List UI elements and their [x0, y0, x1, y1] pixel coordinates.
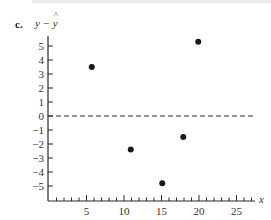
- data-point: [89, 64, 95, 70]
- data-point: [159, 180, 165, 186]
- y-tick-label: −5: [32, 180, 44, 192]
- data-point: [195, 39, 201, 45]
- y-tick-label: 4: [39, 54, 45, 66]
- y-tick-label: −1: [32, 124, 44, 136]
- x-tick-label: 25: [231, 205, 243, 217]
- data-point: [180, 134, 186, 140]
- data-point: [128, 147, 134, 153]
- y-tick-label: −3: [32, 152, 44, 164]
- x-axis-label: x: [258, 193, 264, 205]
- y-axis: 543210−1−2−3−4−5: [32, 36, 53, 201]
- x-tick-label: 5: [84, 205, 90, 217]
- residual-scatter-plot: 543210−1−2−3−4−5 510152025 x: [0, 0, 271, 220]
- x-tick-label: 10: [119, 205, 131, 217]
- x-axis: 510152025: [48, 195, 255, 217]
- y-tick-label: 1: [39, 96, 45, 108]
- x-tick-label: 15: [156, 205, 168, 217]
- y-tick-label: −4: [32, 166, 44, 178]
- data-points: [89, 39, 202, 186]
- y-tick-label: 3: [39, 68, 45, 80]
- y-tick-label: 0: [39, 110, 45, 122]
- x-tick-label: 20: [194, 205, 206, 217]
- y-tick-label: 5: [39, 40, 45, 52]
- y-tick-label: −2: [32, 138, 44, 150]
- y-tick-label: 2: [39, 82, 45, 94]
